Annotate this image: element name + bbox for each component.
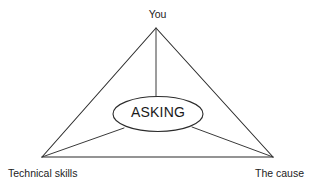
triangle-diagram-graphic: [0, 0, 313, 187]
vertex-label-you: You: [0, 9, 313, 20]
vertex-label-technical-skills: Technical skills: [8, 168, 77, 179]
edge-top-to-bottom-right: [156, 28, 273, 157]
spoke-bottom-right-to-center: [192, 127, 273, 157]
edge-top-to-bottom-left: [42, 28, 156, 157]
center-node-label: ASKING: [113, 105, 203, 119]
vertex-label-the-cause: The cause: [255, 168, 304, 179]
vertex-label-you-text: You: [149, 9, 167, 20]
diagram-canvas: You Technical skills The cause ASKING: [0, 0, 313, 187]
